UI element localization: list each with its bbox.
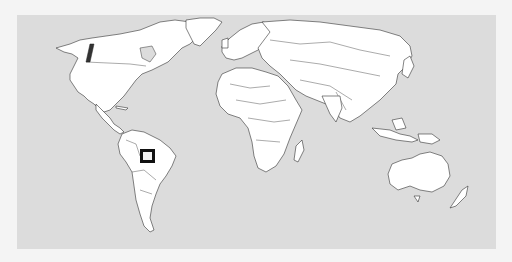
caribbean-islands <box>116 106 128 110</box>
location-marker-square <box>142 151 154 162</box>
madagascar <box>294 140 304 162</box>
united-kingdom <box>222 38 228 48</box>
borneo <box>392 118 406 130</box>
new-guinea <box>418 134 440 144</box>
india <box>322 96 342 122</box>
world-map <box>0 0 512 262</box>
new-zealand <box>450 186 468 208</box>
tasmania <box>414 196 420 202</box>
north-america <box>56 20 205 112</box>
australia <box>388 152 450 192</box>
south-america <box>118 130 176 232</box>
indonesia <box>372 128 418 142</box>
